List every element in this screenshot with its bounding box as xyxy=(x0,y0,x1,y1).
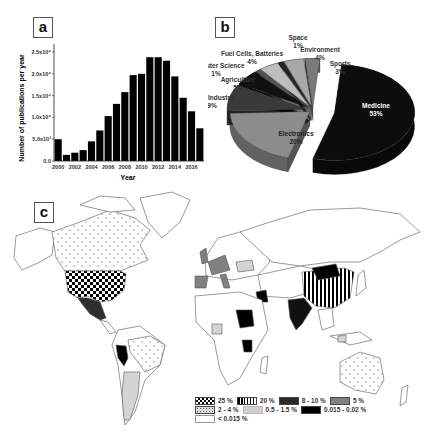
y-tick-label: 0.0 xyxy=(43,158,51,164)
x-tick-label: 2006 xyxy=(102,164,114,170)
dark-swatch-icon xyxy=(279,397,299,405)
x-tick-label: 2002 xyxy=(69,164,81,170)
bar xyxy=(180,98,187,161)
x-tick-label: 2014 xyxy=(169,164,182,170)
y-tick-label: 5.0x10³ xyxy=(32,136,51,142)
bar xyxy=(88,141,95,161)
bar xyxy=(113,104,120,161)
region-australia xyxy=(340,352,384,394)
pie-percent: 5% xyxy=(233,84,243,91)
region-canada xyxy=(52,210,150,271)
x-tick-label: 2012 xyxy=(152,164,164,170)
checker-swatch-icon xyxy=(195,397,215,405)
region-tanzania xyxy=(242,340,252,352)
light-gray-swatch-icon xyxy=(243,406,263,414)
region-argentina xyxy=(122,372,140,420)
region-spain xyxy=(195,276,208,288)
pie-label: Electronics xyxy=(278,130,313,137)
bar xyxy=(196,128,203,161)
map-legend: 25 % 20 % 8 - 10 % 5 % 2 - 4 % 0.5 - 1.5… xyxy=(195,396,370,423)
legend-item-0-5-1-5: 0.5 - 1.5 % xyxy=(243,406,297,414)
x-axis-label: Year xyxy=(121,174,136,181)
pie-label: Sports xyxy=(330,60,351,68)
pie-percent: 20% xyxy=(289,138,302,145)
pie-percent: 53% xyxy=(369,110,382,117)
legend-item-20: 20 % xyxy=(237,397,275,405)
region-alaska xyxy=(14,228,55,270)
bar xyxy=(171,76,178,161)
stripes-swatch-icon xyxy=(237,397,257,405)
bar-chart: 0.05.0x10³1.0x10⁴1.5x10⁴2.0x10⁴2.5x10⁴ 2… xyxy=(0,0,210,190)
bar xyxy=(130,75,137,161)
bar xyxy=(71,153,78,161)
y-tick-label: 1.5x10⁴ xyxy=(31,93,51,99)
region-uk xyxy=(200,248,208,264)
bar xyxy=(121,92,128,161)
legend-item-8-10: 8 - 10 % xyxy=(279,397,326,405)
y-axis-label: Number of publications per year xyxy=(18,54,26,162)
region-russia xyxy=(240,208,420,266)
x-tick-label: 2000 xyxy=(52,164,64,170)
pie-label: Environment xyxy=(300,46,341,53)
gray-swatch-icon xyxy=(330,397,350,405)
y-tick-label: 2.5x10⁴ xyxy=(31,49,51,55)
region-usa xyxy=(65,271,126,302)
legend-item-5: 5 % xyxy=(330,397,364,405)
pie-label: Agriculture xyxy=(221,76,256,84)
x-axis: 200020022004200620082010201220142016 xyxy=(52,161,204,170)
y-axis: 0.05.0x10³1.0x10⁴1.5x10⁴2.0x10⁴2.5x10⁴ xyxy=(31,44,54,164)
bar xyxy=(105,116,112,161)
pie-label: Food Industry xyxy=(208,94,234,102)
pie-label: Computer Science xyxy=(208,62,245,70)
black-swatch-icon xyxy=(301,406,321,414)
pie-percent: 9% xyxy=(208,102,217,109)
bars xyxy=(55,57,204,161)
bar xyxy=(146,57,153,161)
bar xyxy=(188,111,195,161)
pie-percent: 1% xyxy=(211,70,221,77)
pie-label: Medicine xyxy=(362,102,390,109)
region-indonesia xyxy=(338,335,346,342)
bar xyxy=(63,155,70,161)
y-tick-label: 2.0x10⁴ xyxy=(31,71,51,77)
x-tick-label: 2004 xyxy=(85,164,98,170)
legend-item-lt-0-015: < 0.015 % xyxy=(195,415,247,423)
bar xyxy=(138,74,145,161)
pie-percent: 3% xyxy=(335,68,345,75)
x-tick-label: 2008 xyxy=(119,164,131,170)
bar xyxy=(55,139,62,161)
bar xyxy=(155,57,162,161)
pie-percent: 4% xyxy=(247,58,257,65)
white-swatch-icon xyxy=(195,415,215,423)
region-madagascar xyxy=(260,356,268,374)
legend-item-0-015-0-02: 0.015 - 0.02 % xyxy=(301,406,366,414)
region-india xyxy=(288,298,312,330)
x-tick-label: 2016 xyxy=(185,164,197,170)
pie-label: Fuel Cells, Batteries xyxy=(221,50,284,58)
bar xyxy=(163,61,170,161)
dots-swatch-icon xyxy=(195,406,215,414)
bar xyxy=(80,150,87,161)
legend-item-25: 25 % xyxy=(195,397,233,405)
region-nigeria xyxy=(212,324,222,334)
region-africa xyxy=(195,292,268,385)
y-tick-label: 1.0x10⁴ xyxy=(31,114,51,120)
pie-chart: Medicine53%Electronics20%Food Industry9%… xyxy=(208,0,438,190)
x-tick-label: 2010 xyxy=(135,164,147,170)
region-eastern-europe xyxy=(236,260,254,272)
bar xyxy=(96,130,103,161)
pie-label: Space xyxy=(288,34,308,42)
legend-item-2-4: 2 - 4 % xyxy=(195,406,239,414)
pie-percent: 4% xyxy=(315,54,325,61)
